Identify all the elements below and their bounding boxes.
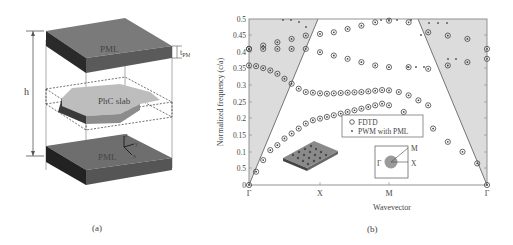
pwm-point [248, 184, 250, 186]
pwm-point [291, 83, 293, 85]
x-axis-label: Wavevector [373, 203, 411, 212]
svg-text:0.3: 0.3 [237, 81, 247, 90]
pwm-point [262, 159, 264, 161]
pwm-point [447, 141, 449, 143]
svg-text:0.45: 0.45 [233, 31, 246, 40]
svg-text:0.15: 0.15 [233, 131, 246, 140]
pwm-point [361, 108, 363, 110]
pwm-point [427, 31, 429, 33]
pwm-point [467, 61, 469, 63]
pwm-point [361, 25, 363, 27]
pwm-point [326, 116, 328, 118]
pwm-point [298, 128, 300, 130]
legend-fdtd: FDTD [358, 118, 378, 127]
pwm-point [277, 41, 279, 43]
pwm-point [333, 114, 335, 116]
svg-text:0.2: 0.2 [237, 114, 247, 123]
pwm-point [284, 138, 286, 140]
svg-text:0.5: 0.5 [237, 15, 247, 24]
pwm-point [347, 58, 349, 60]
caption-b: (b) [367, 224, 378, 234]
band-diagram-chart: 0 0.5 0.1 0.15 0.2 0.25 0.3 0.35 0.4 0.4… [0, 0, 513, 245]
pwm-point [291, 38, 293, 40]
svg-text:0.5: 0.5 [237, 164, 247, 173]
pwm-point [374, 90, 376, 92]
pwm-point [427, 104, 429, 106]
pwm-point [298, 88, 300, 90]
pwm-point [319, 92, 321, 94]
pwm-point [333, 92, 335, 94]
pwm-point [277, 144, 279, 146]
pwm-point [347, 111, 349, 113]
y-axis-label: Normalized frequency (c/a) [216, 57, 225, 146]
svg-text:M: M [385, 189, 392, 198]
pwm-point [354, 109, 356, 111]
pwm-point [388, 89, 390, 91]
pwm-point [312, 92, 314, 94]
bz-x-label: X [411, 159, 417, 168]
pwm-point [361, 91, 363, 93]
pwm-point [418, 99, 420, 101]
pwm-point [347, 28, 349, 30]
svg-text:0.25: 0.25 [233, 98, 246, 107]
pwm-point [432, 128, 434, 130]
pwm-point [447, 35, 449, 37]
pwm-point [381, 89, 383, 91]
pwm-point [408, 94, 410, 96]
pwm-point [291, 133, 293, 135]
pwm-point [340, 113, 342, 115]
pwm-point [447, 65, 449, 67]
svg-text:0.35: 0.35 [233, 64, 246, 73]
svg-text:0: 0 [242, 181, 246, 190]
pwm-point [277, 73, 279, 75]
pwm-point [305, 91, 307, 93]
pwm-point [319, 51, 321, 53]
pwm-point [381, 103, 383, 105]
phc-slab-inset [283, 141, 338, 171]
svg-text:X: X [317, 189, 323, 198]
pwm-point [388, 104, 390, 106]
pwm-point [486, 48, 488, 50]
pwm-point [333, 55, 335, 57]
pwm-point [255, 171, 257, 173]
pwm-point [255, 65, 257, 67]
pwm-point [333, 31, 335, 33]
pwm-point [269, 149, 271, 151]
bz-m-label: M [411, 144, 418, 153]
pwm-point [374, 104, 376, 106]
pwm-point [476, 163, 478, 165]
pwm-point [277, 48, 279, 50]
pwm-point [262, 67, 264, 69]
pwm-point [284, 78, 286, 80]
pwm-point [408, 21, 410, 23]
pwm-point [374, 65, 376, 67]
x-axis: Γ X M Γ [247, 189, 490, 198]
pwm-point [361, 61, 363, 63]
legend-pwm: PWM with PML [358, 127, 409, 136]
pwm-point [262, 45, 264, 47]
pwm-point [340, 92, 342, 94]
pwm-point [403, 111, 405, 113]
pwm-point [305, 48, 307, 50]
pwm-point [354, 91, 356, 93]
svg-text:0.4: 0.4 [237, 48, 247, 57]
y-axis: 0 0.5 0.1 0.15 0.2 0.25 0.3 0.35 0.4 0.4… [233, 15, 246, 190]
pwm-point [291, 48, 293, 50]
pwm-point [367, 106, 369, 108]
pwm-point [398, 91, 400, 93]
pwm-point [388, 66, 390, 68]
pwm-point [305, 35, 307, 37]
pwm-point [367, 90, 369, 92]
svg-text:Γ: Γ [247, 189, 252, 198]
pwm-point [486, 58, 488, 60]
legend: FDTD PWM with PML [342, 115, 423, 137]
pwm-point [347, 92, 349, 94]
pwm-point [486, 184, 488, 186]
pwm-point [374, 21, 376, 23]
pwm-point [427, 68, 429, 70]
pwm-point [319, 118, 321, 120]
pwm-point [269, 70, 271, 72]
svg-text:0.1: 0.1 [237, 148, 247, 157]
bz-gamma-label: Γ [377, 159, 382, 168]
pwm-point [326, 93, 328, 95]
